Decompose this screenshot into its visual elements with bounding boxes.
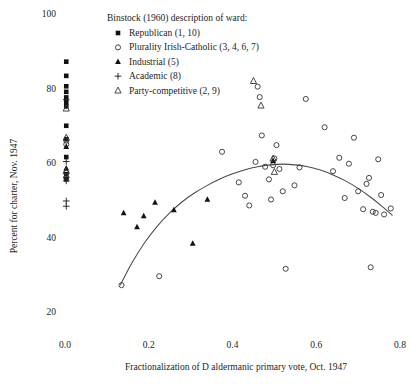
scatter-plot-figure: 20406080100 0.00.20.40.60.8 Percent for … bbox=[0, 0, 416, 384]
legend-item-label: Republican (1, 10) bbox=[129, 28, 200, 39]
data-points bbox=[63, 59, 393, 287]
marker-open-circle bbox=[115, 45, 120, 50]
marker-filled-triangle bbox=[141, 213, 147, 219]
marker-open-circle bbox=[283, 266, 288, 271]
marker-filled-triangle bbox=[204, 196, 210, 202]
y-tick-40: 40 bbox=[47, 233, 57, 243]
marker-filled-square bbox=[64, 74, 69, 79]
legend-item-label: Academic (8) bbox=[129, 71, 181, 82]
y-axis-tick-labels: 20406080100 bbox=[42, 9, 57, 317]
marker-filled-square bbox=[64, 59, 69, 64]
marker-open-circle bbox=[253, 159, 258, 164]
marker-open-circle bbox=[259, 133, 264, 138]
marker-filled-triangle bbox=[121, 210, 127, 216]
marker-open-circle bbox=[382, 212, 387, 217]
legend-item-4: Party-competitive (2, 9) bbox=[115, 86, 220, 97]
marker-open-circle bbox=[388, 206, 393, 211]
marker-open-circle bbox=[351, 135, 356, 140]
marker-open-circle bbox=[361, 207, 366, 212]
marker-open-circle bbox=[257, 95, 262, 100]
marker-open-circle bbox=[266, 177, 271, 182]
series-1 bbox=[64, 84, 394, 288]
x-tick-0.0: 0.0 bbox=[59, 340, 71, 350]
marker-open-circle bbox=[263, 164, 268, 169]
marker-open-circle bbox=[322, 125, 327, 130]
legend-title: Binstock (1960) description of ward: bbox=[107, 13, 247, 24]
marker-open-circle bbox=[364, 181, 369, 186]
marker-filled-triangle bbox=[152, 199, 158, 205]
marker-open-circle bbox=[280, 189, 285, 194]
legend-item-label: Plurality Irish-Catholic (3, 4, 6, 7) bbox=[129, 42, 259, 53]
x-tick-0.6: 0.6 bbox=[310, 340, 322, 350]
marker-open-circle bbox=[366, 175, 371, 180]
marker-open-circle bbox=[247, 203, 252, 208]
y-axis-title: Percent for charter, Nov. 1947 bbox=[9, 138, 19, 253]
x-tick-0.2: 0.2 bbox=[143, 340, 155, 350]
marker-filled-triangle bbox=[115, 59, 121, 65]
marker-plus bbox=[115, 73, 122, 80]
marker-filled-square bbox=[64, 123, 69, 128]
legend-item-3: Academic (8) bbox=[115, 71, 181, 82]
legend: Binstock (1960) description of ward: Rep… bbox=[107, 13, 259, 97]
marker-open-triangle bbox=[250, 78, 256, 84]
plot-canvas: 20406080100 0.00.20.40.60.8 Percent for … bbox=[0, 0, 416, 384]
x-tick-0.4: 0.4 bbox=[227, 340, 239, 350]
marker-open-circle bbox=[376, 157, 381, 162]
legend-item-label: Industrial (5) bbox=[129, 57, 179, 68]
series-3 bbox=[63, 96, 70, 209]
x-axis-tick-labels: 0.00.20.40.60.8 bbox=[59, 340, 406, 350]
marker-open-triangle bbox=[258, 102, 264, 108]
marker-open-circle bbox=[379, 192, 384, 197]
marker-open-circle bbox=[292, 183, 297, 188]
marker-open-circle bbox=[337, 155, 342, 160]
marker-plus bbox=[63, 158, 70, 165]
marker-open-circle bbox=[219, 149, 224, 154]
marker-filled-triangle bbox=[134, 224, 140, 230]
marker-filled-square bbox=[116, 31, 121, 36]
legend-item-2: Industrial (5) bbox=[115, 57, 179, 68]
marker-plus bbox=[63, 203, 70, 210]
y-tick-20: 20 bbox=[47, 307, 57, 317]
marker-filled-triangle bbox=[190, 240, 196, 246]
marker-open-circle bbox=[268, 197, 273, 202]
x-axis-title: Fractionalization of D aldermanic primar… bbox=[125, 362, 347, 372]
marker-open-circle bbox=[342, 195, 347, 200]
marker-plus bbox=[63, 96, 70, 103]
marker-open-circle bbox=[255, 84, 260, 89]
y-tick-80: 80 bbox=[47, 84, 57, 94]
marker-open-circle bbox=[303, 96, 308, 101]
marker-open-circle bbox=[243, 193, 248, 198]
legend-item-label: Party-competitive (2, 9) bbox=[129, 86, 220, 97]
marker-open-circle bbox=[236, 180, 241, 185]
legend-item-0: Republican (1, 10) bbox=[116, 28, 200, 39]
fitted-trend-curve bbox=[120, 164, 392, 285]
marker-open-circle bbox=[330, 169, 335, 174]
marker-open-circle bbox=[346, 161, 351, 166]
marker-open-circle bbox=[157, 274, 162, 279]
marker-filled-square bbox=[64, 84, 69, 89]
series-2 bbox=[63, 143, 276, 245]
marker-open-circle bbox=[356, 189, 361, 194]
marker-open-circle bbox=[368, 265, 373, 270]
marker-open-circle bbox=[373, 210, 378, 215]
marker-open-circle bbox=[274, 143, 279, 148]
legend-item-1: Plurality Irish-Catholic (3, 4, 6, 7) bbox=[115, 42, 258, 53]
y-tick-60: 60 bbox=[47, 158, 57, 168]
y-tick-100: 100 bbox=[42, 9, 57, 19]
marker-open-triangle bbox=[115, 87, 121, 93]
marker-filled-square bbox=[64, 90, 69, 95]
marker-open-circle bbox=[370, 209, 375, 214]
legend-entries: Republican (1, 10)Plurality Irish-Cathol… bbox=[115, 28, 259, 97]
marker-open-circle bbox=[277, 166, 282, 171]
x-tick-0.8: 0.8 bbox=[394, 340, 406, 350]
